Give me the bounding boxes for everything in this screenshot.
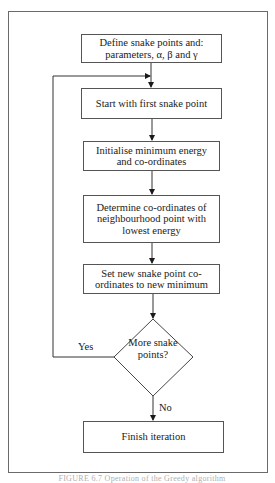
step-determine-coordinates: Determine co-ordinates of neighbourhood … — [83, 195, 220, 243]
step-start-first-point: Start with first snake point — [81, 88, 222, 119]
step-initialise-minimum: Initialise minimum energy and co-ordinat… — [83, 141, 220, 171]
decision-text: More snake points? — [124, 337, 182, 361]
step-text: Finish iteration — [122, 431, 186, 443]
no-label: No — [159, 402, 172, 414]
step-text: Define snake points and: parameters, α, … — [86, 37, 217, 60]
step-finish-iteration: Finish iteration — [83, 421, 224, 453]
step-text: Set new snake point co-ordinates to new … — [88, 268, 215, 291]
step-text: Start with first snake point — [96, 98, 207, 110]
step-text: Initialise minimum energy and co-ordinat… — [88, 145, 215, 168]
step-define-parameters: Define snake points and: parameters, α, … — [81, 34, 222, 63]
step-set-new-point: Set new snake point co-ordinates to new … — [83, 264, 220, 294]
step-text: Determine co-ordinates of neighbourhood … — [88, 202, 215, 237]
yes-label: Yes — [78, 341, 93, 353]
figure-caption: FIGURE 6.7 Operation of the Greedy algor… — [22, 474, 262, 483]
